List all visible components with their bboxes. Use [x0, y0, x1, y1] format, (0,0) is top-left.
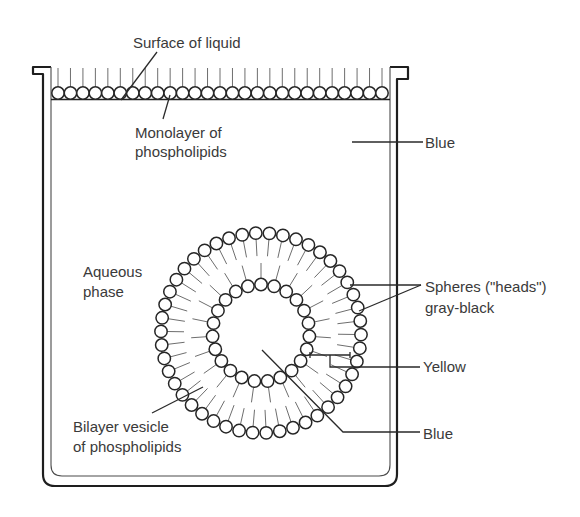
- phospholipid-tail: [225, 273, 233, 287]
- phospholipid-head: [354, 342, 366, 354]
- phospholipid-head: [212, 304, 224, 316]
- phospholipid-head: [151, 87, 163, 99]
- phospholipid-tail: [231, 244, 236, 260]
- phospholipid-head: [209, 343, 221, 355]
- phospholipid-tail: [233, 383, 239, 398]
- phospholipid-head: [178, 262, 190, 274]
- phospholipid-head: [339, 380, 351, 392]
- phospholipid-head: [102, 87, 114, 99]
- phospholipid-tail: [326, 374, 340, 383]
- phospholipid-head: [155, 325, 167, 337]
- phospholipid-head: [139, 87, 151, 99]
- phospholipid-head: [338, 87, 350, 99]
- phospholipid-head: [341, 276, 353, 288]
- phospholipid-head: [235, 371, 247, 383]
- phospholipid-tail: [337, 322, 354, 324]
- phospholipid-head: [196, 408, 208, 420]
- phospholipid-head: [89, 87, 101, 99]
- phospholipid-head: [156, 312, 168, 324]
- phospholipid-tail: [313, 390, 324, 403]
- phospholipid-tail: [332, 297, 348, 304]
- phospholipid-tail: [171, 306, 187, 311]
- phospholipid-tail: [275, 409, 278, 426]
- phospholipid-head: [188, 253, 200, 265]
- phospholipid-head: [290, 294, 302, 306]
- phospholipid-head: [294, 355, 306, 367]
- phospholipid-tail: [320, 383, 333, 394]
- phospholipid-tail: [189, 273, 202, 284]
- phospholipid-head: [268, 280, 280, 292]
- monolayer-tails: [58, 68, 382, 87]
- phospholipid-head: [331, 391, 343, 403]
- phospholipid-head: [158, 352, 170, 364]
- phospholipid-head: [162, 365, 174, 377]
- phospholipid-head: [264, 87, 276, 99]
- phospholipid-head: [324, 255, 336, 267]
- label-aqueous-line2: phase: [83, 283, 124, 300]
- phospholipid-tail: [300, 285, 312, 296]
- phospholipid-head: [301, 87, 313, 99]
- phospholipid-head: [189, 87, 201, 99]
- phospholipid-tail: [309, 301, 323, 308]
- phospholipid-head: [274, 425, 286, 437]
- phospholipid-head: [114, 87, 126, 99]
- phospholipid-head: [276, 87, 288, 99]
- phospholipid-head: [169, 377, 181, 389]
- phospholipid-head: [313, 87, 325, 99]
- phospholipid-head: [322, 401, 334, 413]
- phospholipid-head: [185, 399, 197, 411]
- label-spheres-line2: gray-black: [425, 299, 495, 316]
- phospholipid-head: [230, 285, 242, 297]
- phospholipid-head: [224, 364, 236, 376]
- phospholipid-head: [164, 286, 176, 298]
- phospholipid-tail: [181, 283, 195, 292]
- vesicle-tails: [167, 239, 355, 427]
- phospholipid-tail: [321, 275, 334, 286]
- phospholipid-head: [246, 426, 258, 438]
- phospholipid-tail: [168, 342, 185, 344]
- phospholipid-head: [210, 237, 222, 249]
- phospholipid-tail: [314, 319, 330, 322]
- phospholipid-tail: [175, 294, 190, 301]
- phospholipid-head: [214, 87, 226, 99]
- phospholipid-tail: [267, 239, 268, 256]
- phospholipid-head: [242, 280, 254, 292]
- phospholipid-tail: [298, 250, 306, 265]
- phospholipid-tail: [242, 266, 246, 281]
- phospholipid-head: [207, 317, 219, 329]
- phospholipid-head: [314, 246, 326, 258]
- label-aqueous-line1: Aqueous: [83, 263, 142, 280]
- phospholipid-diagram: Surface of liquid Monolayer of phospholi…: [0, 0, 580, 517]
- phospholipid-head: [302, 239, 314, 251]
- phospholipid-head: [219, 294, 231, 306]
- label-blue-bottom: Blue: [423, 425, 453, 442]
- phospholipid-head: [215, 355, 227, 367]
- phospholipid-head: [298, 304, 310, 316]
- phospholipid-head: [354, 315, 366, 327]
- phospholipid-head: [351, 87, 363, 99]
- phospholipid-tail: [192, 319, 208, 322]
- phospholipid-tail: [251, 386, 253, 402]
- phospholipid-head: [302, 317, 314, 329]
- phospholipid-head: [300, 343, 312, 355]
- phospholipid-head: [352, 301, 364, 313]
- label-bilayer-line1: Bilayer vesicle: [73, 418, 169, 435]
- phospholipid-head: [290, 233, 302, 245]
- phospholipid-head: [220, 420, 232, 432]
- phospholipid-tail: [295, 402, 303, 417]
- phospholipid-tail: [283, 383, 289, 398]
- monolayer: [51, 68, 390, 100]
- phospholipid-head: [159, 298, 171, 310]
- label-surface-of-liquid: Surface of liquid: [133, 34, 241, 51]
- phospholipid-tail: [219, 249, 227, 264]
- phospholipid-head: [52, 87, 64, 99]
- phospholipid-tail: [314, 265, 326, 277]
- phospholipid-tail: [306, 257, 316, 271]
- phospholipid-tail: [168, 319, 185, 322]
- bilayer-vesicle: [155, 227, 367, 439]
- phospholipid-tail: [335, 355, 351, 360]
- phospholipid-head: [277, 229, 289, 241]
- phospholipid-tail: [337, 345, 354, 348]
- vesicle-heads: [155, 227, 367, 439]
- phospholipid-tail: [228, 405, 234, 421]
